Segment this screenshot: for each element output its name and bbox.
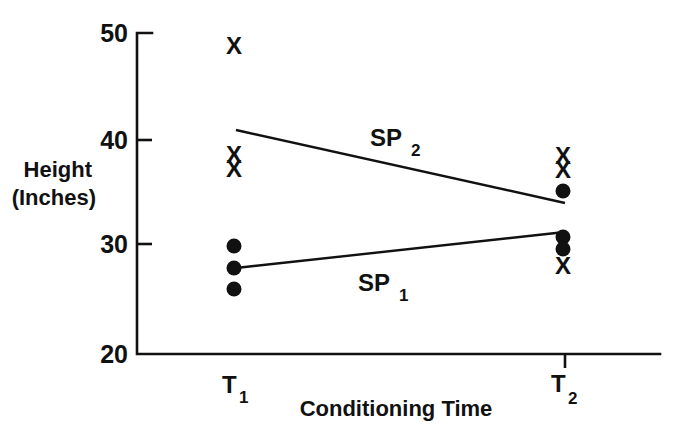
scatter-plot-svg: 50 40 30 20 Height (Inches) SP 2 SP 1 X … — [0, 0, 685, 443]
data-point-dot — [227, 261, 242, 276]
data-points-sp2: X X X X X X — [226, 32, 571, 279]
series-label-sp1: SP 1 — [358, 269, 408, 305]
y-tick-label-20: 20 — [100, 340, 128, 368]
x-axis-title: Conditioning Time — [300, 396, 493, 421]
data-point-dot — [227, 239, 242, 254]
series-label-sp2-base: SP — [370, 124, 402, 151]
trend-line-sp1 — [236, 232, 565, 268]
y-tick-labels: 50 40 30 20 — [100, 19, 128, 368]
series-label-sp1-subscript: 1 — [399, 286, 408, 305]
x-tick-label-t2-subscript: 2 — [568, 389, 577, 408]
y-axis-title-line2: (Inches) — [12, 185, 96, 210]
y-axis-title: Height (Inches) — [12, 157, 96, 210]
series-label-sp1-base: SP — [358, 269, 390, 296]
data-point-x-marker: X — [555, 156, 571, 183]
data-point-dot — [556, 184, 571, 199]
series-label-sp2-subscript: 2 — [411, 141, 420, 160]
data-point-dot — [556, 242, 571, 257]
y-tick-label-40: 40 — [100, 126, 128, 154]
chart-figure: 50 40 30 20 Height (Inches) SP 2 SP 1 X … — [0, 0, 685, 443]
x-tick-label-t1-subscript: 1 — [239, 388, 248, 407]
axes-group — [137, 33, 660, 368]
x-tick-label-t2-base: T — [551, 370, 566, 397]
x-tick-label-t1: T 1 — [222, 371, 248, 407]
data-points-sp1 — [227, 184, 571, 297]
data-point-dot — [227, 282, 242, 297]
data-point-x-marker: X — [226, 155, 242, 182]
y-tick-label-50: 50 — [100, 19, 128, 47]
axis-lines — [137, 33, 660, 354]
x-tick-label-t2: T 2 — [551, 370, 577, 408]
data-point-x-marker: X — [226, 32, 242, 59]
x-tick-label-t1-base: T — [222, 371, 237, 398]
y-axis-title-line1: Height — [24, 157, 93, 182]
series-label-sp2: SP 2 — [370, 124, 420, 160]
y-tick-label-30: 30 — [100, 230, 128, 258]
